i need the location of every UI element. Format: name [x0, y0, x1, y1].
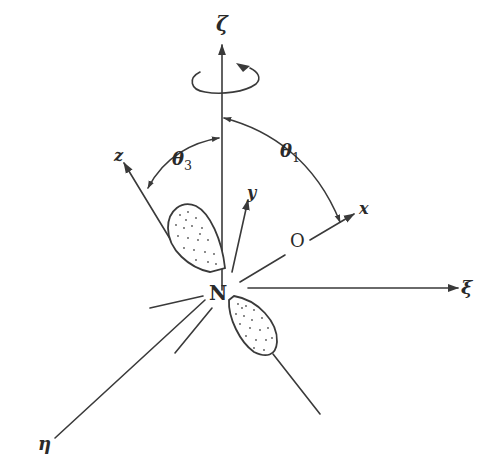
nitrogen-atom-label: N	[209, 283, 227, 303]
x-label: x	[359, 201, 369, 217]
xi-label: ξ	[461, 278, 472, 297]
theta1-subscript: 1	[292, 150, 300, 165]
eta-axis	[55, 300, 205, 438]
eta-label: η	[38, 435, 51, 453]
y-label: y	[247, 185, 256, 201]
theta1-arc	[224, 118, 340, 222]
x-axis	[310, 214, 354, 240]
upper-orbital-lobe	[168, 204, 225, 272]
y-axis	[232, 200, 248, 272]
theta3-symbol: θ	[172, 148, 184, 169]
back-line-1	[150, 296, 203, 308]
lower-orbital-lobe	[229, 296, 277, 355]
oxygen-atom-label: O	[290, 232, 305, 250]
z-axis-lower	[273, 354, 320, 414]
back-line-2	[175, 308, 212, 353]
zeta-label: ζ	[216, 14, 228, 34]
n-o-bond	[240, 255, 285, 282]
rotation-arrow-icon	[192, 63, 259, 93]
theta1-symbol: θ	[280, 140, 292, 161]
theta3-subscript: 3	[184, 158, 192, 173]
molecular-frame-diagram	[0, 0, 491, 472]
theta3-label: θ3	[172, 150, 192, 172]
z-label: z	[114, 148, 123, 164]
theta1-label: θ1	[280, 142, 300, 164]
